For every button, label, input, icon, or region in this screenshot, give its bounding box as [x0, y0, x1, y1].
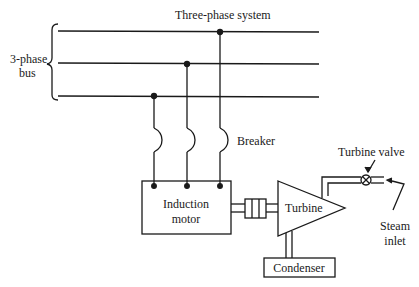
breaker-2-icon	[187, 128, 195, 152]
condenser-label: Condenser	[273, 261, 324, 275]
motor-label-line2: motor	[172, 212, 201, 226]
turbine-label: Turbine	[285, 201, 323, 215]
steam-pipe-outer	[328, 183, 361, 196]
motor-terminal-3	[218, 184, 223, 189]
steam-label-line2: inlet	[384, 234, 406, 248]
breaker-3-icon	[220, 128, 228, 152]
motor-terminal-2	[185, 184, 190, 189]
breaker-label: Breaker	[237, 134, 275, 148]
bus-line-c	[58, 96, 319, 97]
valve-arrowhead-icon	[365, 167, 371, 172]
power-system-diagram: Three-phase system 3-phase bus Breaker I…	[0, 0, 419, 287]
breaker-1-icon	[154, 128, 162, 152]
motor-label-line1: Induction	[163, 197, 209, 211]
valve-label: Turbine valve	[338, 145, 405, 159]
bus-brace	[47, 24, 58, 100]
steam-arrowhead-icon	[387, 178, 392, 183]
diagram-title: Three-phase system	[175, 8, 271, 22]
bus-line-a	[58, 31, 319, 32]
steam-inlet-arrow	[392, 181, 404, 210]
steam-label-line1: Steam	[380, 219, 411, 233]
bus-label-line2: bus	[19, 66, 36, 80]
bus-label-line1: 3-phase	[10, 52, 47, 66]
motor-terminal-1	[152, 184, 157, 189]
coupling-icon	[245, 199, 266, 218]
